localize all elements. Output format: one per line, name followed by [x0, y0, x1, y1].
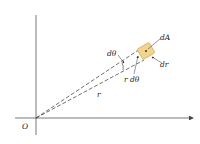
label-dr: dr [160, 60, 169, 69]
label-r-dtheta: r dθ [124, 75, 140, 84]
label-dtheta: dθ [107, 49, 117, 58]
label-origin: O [22, 122, 28, 131]
leader-dtheta [118, 55, 124, 63]
label-r: r [97, 90, 101, 99]
polar-area-diagram: dθ dA dr r dθ r O [0, 0, 200, 144]
label-dA: dA [160, 33, 171, 42]
angle-arc [122, 63, 123, 70]
radial-line-lower [36, 60, 144, 118]
